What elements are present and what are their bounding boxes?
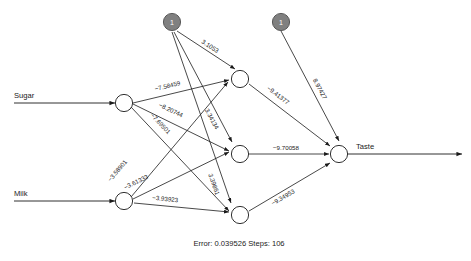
weight-label-bias-h1: 3.1053: [201, 38, 221, 54]
weight-label-milk-h1: −3.58901: [106, 158, 128, 183]
weight-label-sugar-h3: −7.69501: [149, 111, 172, 135]
node-hidden-1: [231, 70, 248, 87]
weight-label-h1-output: −9.41377: [266, 84, 291, 106]
weight-label-sugar-h1: −7.58459: [154, 79, 181, 92]
weight-label-h2-output: −9.70058: [273, 144, 300, 151]
edge-bias-h1: [177, 31, 235, 69]
edge-milk-h3: [134, 203, 229, 212]
weight-label-bias-output: 8.97427: [312, 77, 329, 101]
weight-label-milk-h2: −3.61333: [123, 173, 150, 191]
network-canvas: 1 1 Sugar Milk Taste −7.58459 −8.20744 −…: [0, 0, 471, 261]
node-input-sugar: [115, 94, 132, 111]
weight-label-bias-h3: 3.39861: [207, 172, 221, 196]
node-input-milk: [115, 192, 132, 209]
weight-label-sugar-h2: −8.20744: [158, 101, 185, 119]
edge-bias-output: [281, 31, 339, 141]
weight-label-bias-h2: 3.34134: [204, 107, 221, 131]
node-output-taste: [330, 145, 347, 162]
edge-h3-output: [249, 163, 330, 211]
output-label-taste: Taste: [356, 142, 374, 151]
node-hidden-2: [231, 145, 248, 162]
input-label-milk: Milk: [14, 189, 28, 198]
neural-network-figure: 1 1 Sugar Milk Taste −7.58459 −8.20744 −…: [0, 0, 471, 261]
bias-node-output-label: 1: [279, 19, 283, 26]
input-label-sugar: Sugar: [14, 91, 35, 100]
edge-sugar-h1: [133, 80, 229, 103]
edge-h1-output: [249, 84, 330, 146]
weight-label-milk-h3: −3.93923: [152, 194, 179, 204]
node-hidden-3: [231, 206, 248, 223]
footer-status: Error: 0.039526 Steps: 106: [193, 239, 284, 248]
bias-node-hidden-label: 1: [170, 19, 174, 26]
